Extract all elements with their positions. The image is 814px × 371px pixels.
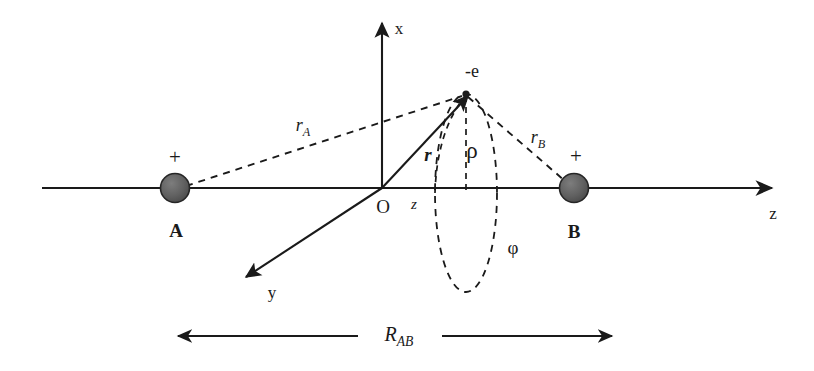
z-coordinate-label: z	[411, 197, 417, 212]
distance-label-rab-base: R	[385, 323, 397, 345]
electron-label: -e	[465, 62, 479, 80]
physics-diagram-figure: x y z + A + B O z -e r ρ φ rA rB RAB	[0, 0, 814, 371]
nucleus-b	[560, 174, 589, 203]
y-axis-line	[246, 188, 382, 277]
distance-label-rab-sub: AB	[397, 334, 414, 349]
distance-label-rb-base: r	[531, 127, 538, 147]
distance-label-ra-base: r	[296, 115, 303, 135]
diagram-canvas	[0, 0, 814, 371]
phi-label: φ	[508, 238, 519, 257]
position-vector-label: r	[424, 145, 431, 164]
nucleus-b-label: B	[568, 222, 581, 241]
distance-label-rb-sub: B	[538, 137, 545, 151]
distance-label-rab: RAB	[385, 324, 414, 349]
origin-label: O	[376, 197, 390, 216]
nucleus-a-label: A	[169, 221, 183, 240]
x-axis-label: x	[395, 20, 404, 37]
nucleus-a	[161, 174, 190, 203]
electron-point	[462, 90, 469, 97]
distance-label-ra: rA	[296, 116, 311, 138]
nucleus-b-charge-sign: +	[570, 146, 582, 167]
distance-label-ra-sub: A	[303, 125, 310, 139]
y-axis-label: y	[268, 284, 277, 301]
position-vector-r	[382, 96, 468, 188]
nucleus-a-charge-sign: +	[169, 147, 181, 168]
phi-arc-left	[435, 95, 466, 193]
distance-line-ra	[186, 96, 462, 186]
distance-label-rb: rB	[531, 128, 546, 150]
rho-label: ρ	[466, 139, 477, 162]
z-axis-label: z	[769, 205, 777, 222]
